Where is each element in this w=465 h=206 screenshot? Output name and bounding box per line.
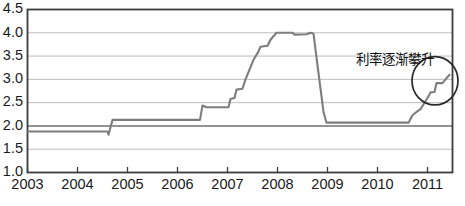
y-tick-label-3.5: 3.5: [3, 47, 23, 63]
x-tick-label-2008: 2008: [261, 176, 293, 192]
x-tick-label-2011: 2011: [412, 176, 443, 192]
x-tick-label-2005: 2005: [111, 176, 143, 192]
x-tick-label-2004: 2004: [61, 176, 93, 192]
y-tick-label-1.5: 1.5: [3, 140, 23, 156]
x-tick-label-2006: 2006: [161, 176, 193, 192]
y-tick-label-4: 4.0: [3, 24, 23, 40]
x-tick-label-2009: 2009: [311, 176, 343, 192]
y-tick-label-3: 3.0: [3, 70, 23, 86]
rate-climb-label: 利率逐渐攀升: [356, 51, 434, 67]
x-tick-label-2010: 2010: [361, 176, 393, 192]
y-tick-label-4.5: 4.5: [3, 0, 23, 16]
annotation-labels: 利率逐渐攀升: [356, 51, 434, 67]
x-axis-labels: 200320042005200620072008200920102011: [11, 176, 443, 192]
y-tick-label-2.5: 2.5: [3, 93, 23, 109]
y-tick-label-2: 2.0: [3, 117, 23, 133]
chart-container: 1.01.52.02.53.03.54.04.5 200320042005200…: [0, 0, 465, 206]
line-chart: 1.01.52.02.53.03.54.04.5 200320042005200…: [0, 0, 465, 206]
x-tick-label-2003: 2003: [11, 176, 43, 192]
x-tick-label-2007: 2007: [211, 176, 243, 192]
